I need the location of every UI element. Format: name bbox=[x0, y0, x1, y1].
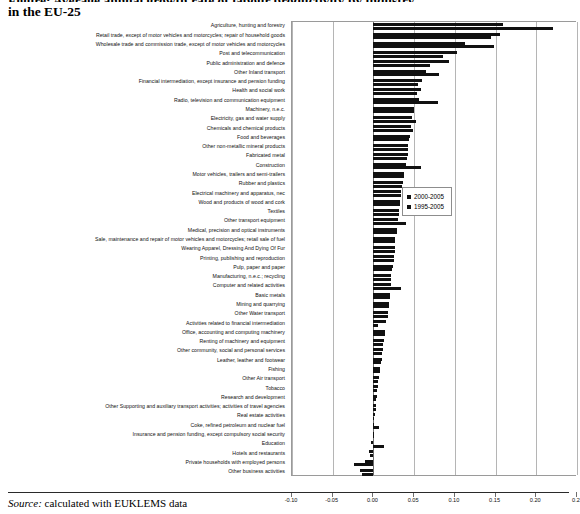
bar-2000-2005 bbox=[373, 51, 457, 54]
gridline bbox=[292, 22, 293, 475]
legend-label: 1995-2005 bbox=[414, 203, 444, 210]
bar-2000-2005 bbox=[365, 460, 373, 463]
bar-2000-2005 bbox=[373, 163, 406, 166]
bar-1995-2005 bbox=[373, 398, 375, 401]
bar-1995-2005 bbox=[373, 343, 383, 346]
bar-1995-2005 bbox=[373, 417, 374, 420]
plot-area: 2000-2005 1995-2005 bbox=[291, 21, 576, 476]
bar-1995-2005 bbox=[373, 55, 442, 58]
bar-2000-2005 bbox=[373, 385, 378, 388]
bar-2000-2005 bbox=[373, 274, 391, 277]
legend-swatch-icon bbox=[407, 205, 411, 209]
bar-1995-2005 bbox=[373, 380, 378, 383]
category-label: Office, accounting and computing machine… bbox=[182, 329, 285, 335]
bar-2000-2005 bbox=[373, 172, 404, 175]
category-axis-labels: Agriculture, hunting and forestryRetail … bbox=[0, 21, 288, 476]
bar-1995-2005 bbox=[373, 268, 392, 271]
bar-1995-2005 bbox=[354, 463, 374, 466]
bar-1995-2005 bbox=[373, 185, 402, 188]
bar-1995-2005 bbox=[373, 45, 494, 48]
x-axis-tick-label: 0.15 bbox=[489, 497, 500, 504]
bar-2000-2005 bbox=[373, 423, 374, 426]
bar-1995-2005 bbox=[373, 240, 394, 243]
bar-2000-2005 bbox=[373, 218, 397, 221]
bar-1995-2005 bbox=[373, 83, 418, 86]
category-label: Other Air transport bbox=[242, 375, 285, 381]
category-label: Pulp, paper and paper bbox=[233, 264, 285, 270]
category-label: Manufacturing, n.e.c.; recycling bbox=[213, 273, 285, 279]
category-label: Food and beverages bbox=[237, 134, 285, 140]
bar-2000-2005 bbox=[373, 367, 380, 370]
bar-2000-2005 bbox=[373, 395, 376, 398]
category-label: Health and social work bbox=[232, 87, 285, 93]
bar-2000-2005 bbox=[373, 79, 422, 82]
bar-1995-2005 bbox=[373, 148, 408, 151]
bar-1995-2005 bbox=[373, 352, 382, 355]
bar-2000-2005 bbox=[373, 60, 449, 63]
bar-1995-2005 bbox=[373, 120, 415, 123]
bar-1995-2005 bbox=[373, 250, 394, 253]
bar-1995-2005 bbox=[373, 101, 437, 104]
bar-1995-2005 bbox=[373, 194, 401, 197]
category-label: Chemicals and chemical products bbox=[207, 125, 285, 131]
gridline bbox=[577, 22, 578, 475]
bar-1995-2005 bbox=[373, 278, 391, 281]
bar-1995-2005 bbox=[373, 324, 378, 327]
bar-2000-2005 bbox=[373, 265, 393, 268]
bar-2000-2005 bbox=[373, 23, 502, 26]
bar-1995-2005 bbox=[373, 296, 389, 299]
bar-2000-2005 bbox=[373, 125, 410, 128]
category-label: Activities related to financial intermed… bbox=[186, 320, 285, 326]
bar-2000-2005 bbox=[373, 237, 395, 240]
category-label: Private households with employed persons bbox=[186, 459, 285, 465]
bar-1995-2005 bbox=[373, 64, 430, 67]
category-label: Other non-metallic mineral products bbox=[202, 143, 285, 149]
category-label: Electricity, gas and water supply bbox=[211, 115, 285, 121]
bar-2000-2005 bbox=[373, 283, 390, 286]
category-label: Printing, publishing and reproduction bbox=[200, 255, 285, 261]
bar-2000-2005 bbox=[371, 441, 373, 444]
category-label: Financial intermediation, except insuran… bbox=[139, 78, 285, 84]
bar-1995-2005 bbox=[373, 213, 398, 216]
bar-2000-2005 bbox=[373, 302, 388, 305]
bar-2000-2005 bbox=[373, 116, 411, 119]
bar-2000-2005 bbox=[373, 107, 414, 110]
bar-2000-2005 bbox=[373, 200, 400, 203]
category-label: Fabricated metal bbox=[246, 152, 285, 158]
category-label: Medical, precision and optical instrumen… bbox=[188, 227, 285, 233]
bar-2000-2005 bbox=[373, 432, 374, 435]
bar-2000-2005 bbox=[373, 42, 464, 45]
x-axis-tick-label: 0.00 bbox=[367, 497, 378, 504]
category-label: Rubber and plastics bbox=[239, 180, 285, 186]
category-label: Other Water transport bbox=[235, 310, 285, 316]
bar-1995-2005 bbox=[373, 435, 374, 438]
category-label: Other business activities bbox=[228, 468, 285, 474]
bar-2000-2005 bbox=[373, 153, 407, 156]
category-label: Wholesale trade and commission trade, ex… bbox=[96, 41, 285, 47]
category-label: Leather, leather and footwear bbox=[217, 357, 285, 363]
footer-divider bbox=[8, 492, 569, 493]
figure-title-line2: in the EU-25 bbox=[8, 2, 568, 19]
x-axis-tick-label: 0.10 bbox=[448, 497, 459, 504]
source-text: calculated with EUKLEMS data bbox=[42, 497, 187, 509]
category-label: Motor vehicles, trailers and semi-traile… bbox=[192, 171, 285, 177]
category-label: Research and development bbox=[221, 394, 285, 400]
source-note: Source: calculated with EUKLEMS data bbox=[8, 496, 187, 510]
bar-1995-2005 bbox=[373, 445, 384, 448]
category-label: Tobacco bbox=[266, 385, 285, 391]
bar-2000-2005 bbox=[369, 450, 374, 453]
bar-1995-2005 bbox=[373, 157, 406, 160]
bar-2000-2005 bbox=[373, 376, 379, 379]
bar-2000-2005 bbox=[373, 98, 419, 101]
category-label: Coke, refined petroleum and nuclear fuel bbox=[190, 422, 285, 428]
legend-label: 2000-2005 bbox=[414, 193, 444, 200]
bar-2000-2005 bbox=[373, 311, 388, 314]
category-label: Post and telecommunication bbox=[219, 50, 285, 56]
x-axis-tick-label: -0.10 bbox=[285, 497, 298, 504]
bar-2000-2005 bbox=[373, 339, 384, 342]
category-label: Other community, social and personal ser… bbox=[177, 347, 285, 353]
chart-figure: Agriculture, hunting and forestryRetail … bbox=[0, 21, 577, 476]
bar-2000-2005 bbox=[373, 228, 397, 231]
category-label: Agriculture, hunting and forestry bbox=[211, 22, 285, 28]
bar-2000-2005 bbox=[373, 320, 386, 323]
